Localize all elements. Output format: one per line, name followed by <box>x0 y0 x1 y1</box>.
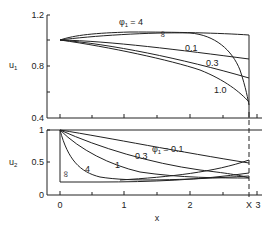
top-panel: 1.2 0.8 0.4 u1 φ1= 4 ∞ 0.1 0.3 1.0 <box>9 10 262 123</box>
xtick-label: 3 <box>255 200 260 210</box>
top-curve-phi-0-3 <box>60 40 249 78</box>
bottom-y-axis-label: u2 <box>9 157 18 168</box>
bottom-ytick-label: 1 <box>39 125 44 135</box>
bottom-label-4: 4 <box>85 164 90 174</box>
bottom-legend-phi: φ1= 0.1 <box>152 144 183 155</box>
bottom-panel: 1 0.5 0 0 1 2 X 3 x u2 φ1= 0.1 0.3 1 4 ∞ <box>9 112 262 223</box>
bottom-label-inf: ∞ <box>61 171 71 177</box>
top-ytick-label: 1.2 <box>31 10 44 20</box>
top-label-inf: ∞ <box>158 31 168 37</box>
xtick-label: 0 <box>57 200 62 210</box>
top-y-axis-label: u1 <box>9 60 18 71</box>
bottom-ytick-label: 0 <box>39 190 44 200</box>
top-ytick-label: 0.8 <box>31 61 44 71</box>
chart: 1.2 0.8 0.4 u1 φ1= 4 ∞ 0.1 0.3 1.0 <box>0 0 270 230</box>
bottom-label-0-3: 0.3 <box>135 151 148 161</box>
top-legend-phi: φ1= 4 <box>119 17 143 28</box>
xtick-label: X <box>246 200 252 210</box>
bottom-ytick-label: 0.5 <box>31 157 44 167</box>
top-label-0-3: 0.3 <box>206 58 219 68</box>
x-axis-label: x <box>155 213 160 223</box>
bottom-label-1: 1 <box>115 160 120 170</box>
xtick-label: 1 <box>121 200 126 210</box>
top-ytick-label: 0.4 <box>31 113 44 123</box>
top-label-1-0: 1.0 <box>214 85 227 95</box>
xtick-label: 2 <box>187 200 192 210</box>
top-label-0-1: 0.1 <box>185 43 198 53</box>
